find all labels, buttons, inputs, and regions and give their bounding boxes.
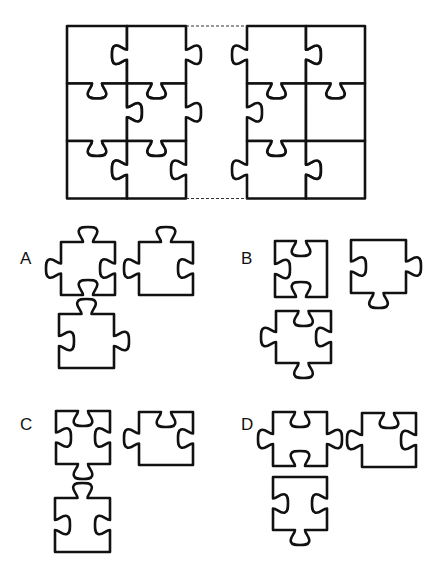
option-a-piece-3: [59, 299, 129, 368]
option-b-piece-1: [275, 241, 327, 297]
puzzle-figure: ABCD: [0, 0, 441, 563]
option-a-piece-2: [124, 227, 193, 295]
option-label: D: [241, 415, 253, 434]
option-b[interactable]: B: [241, 240, 421, 378]
option-c[interactable]: C: [20, 411, 193, 552]
answer-options: ABCD: [20, 227, 421, 552]
option-a-piece-1: [46, 227, 115, 295]
option-label: B: [241, 249, 252, 268]
option-label: C: [20, 415, 32, 434]
option-c-piece-2: [124, 412, 193, 465]
option-d-piece-2: [347, 413, 416, 467]
option-d[interactable]: D: [241, 412, 416, 545]
option-d-piece-1: [258, 412, 342, 466]
option-d-piece-3: [273, 477, 327, 545]
option-c-piece-3: [55, 483, 110, 552]
main-puzzle-grid: [67, 26, 365, 199]
option-c-piece-1: [56, 411, 110, 479]
option-label: A: [20, 249, 32, 268]
option-b-piece-3: [261, 311, 331, 378]
option-a[interactable]: A: [20, 227, 193, 368]
option-b-piece-2: [351, 240, 421, 308]
